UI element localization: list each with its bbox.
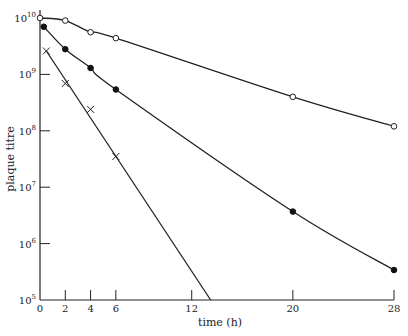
y-tick-label: 106	[19, 237, 37, 250]
chart: 02461220281051061071081091010 time (h) p…	[0, 0, 408, 336]
filled-circle-marker	[41, 24, 47, 30]
cross-marker	[43, 47, 50, 54]
series-line	[46, 51, 210, 300]
y-tick-label: 107	[19, 180, 36, 193]
filled-circle-marker	[88, 65, 94, 71]
x-tick-label: 28	[388, 303, 401, 314]
x-tick-label: 0	[37, 303, 43, 314]
axes: 02461220281051061071081091010	[14, 10, 400, 314]
filled-circle-marker	[391, 267, 397, 273]
open-circle-marker	[88, 29, 94, 35]
x-tick-label: 4	[87, 303, 93, 314]
series-lines	[40, 18, 394, 300]
filled-circle-marker	[113, 87, 119, 93]
y-tick-label: 109	[19, 67, 36, 80]
open-circle-marker	[290, 94, 296, 100]
cross-marker	[112, 153, 119, 160]
open-circle-marker	[37, 15, 43, 21]
x-tick-label: 12	[185, 303, 198, 314]
y-tick-label: 105	[19, 293, 36, 306]
y-axis-label: plaque titre	[4, 126, 17, 191]
x-axis-label: time (h)	[198, 316, 242, 329]
series-line	[44, 27, 394, 270]
y-tick-label: 1010	[14, 11, 36, 24]
x-tick-label: 20	[286, 303, 299, 314]
open-circle-marker	[62, 18, 68, 24]
cross-marker	[87, 106, 94, 113]
y-tick-label: 108	[19, 124, 36, 137]
x-tick-label: 6	[113, 303, 119, 314]
filled-circle-marker	[290, 209, 296, 215]
filled-circle-marker	[62, 46, 68, 52]
x-tick-label: 2	[62, 303, 68, 314]
open-circle-marker	[113, 35, 119, 41]
open-circle-marker	[391, 124, 397, 130]
series-markers	[37, 15, 397, 273]
